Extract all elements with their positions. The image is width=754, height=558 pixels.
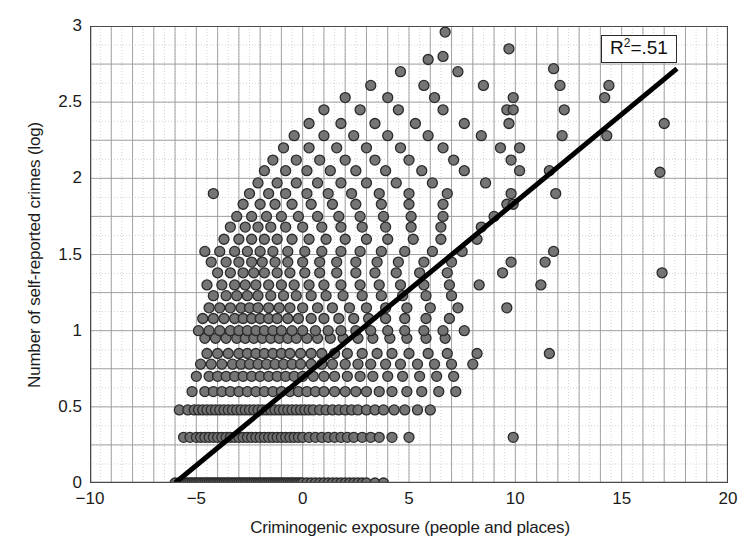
plot-area [90, 26, 728, 483]
x-tick-label: 15 [587, 489, 657, 509]
r-squared-prefix: R [610, 37, 624, 58]
y-tick-label: 0.5 [22, 397, 82, 417]
y-axis-tick-labels: 00.511.522.53 [16, 0, 82, 558]
y-tick-label: 3 [22, 16, 82, 36]
x-tick-label: 0 [268, 489, 338, 509]
x-tick-label: 10 [480, 489, 550, 509]
r-squared-suffix: =.51 [630, 37, 668, 58]
y-tick-label: 1 [22, 321, 82, 341]
y-tick-label: 2 [22, 168, 82, 188]
r-squared-annotation: R2=.51 [601, 35, 677, 63]
plot-canvas [90, 26, 728, 483]
x-tick-label: 5 [374, 489, 444, 509]
scatter-plot-figure: Number of self-reported crimes (log) 00.… [0, 0, 754, 558]
x-axis-tick-labels: −10−505101520 [0, 489, 754, 517]
y-tick-label: 2.5 [22, 92, 82, 112]
x-axis-title: Criminogenic exposure (people and places… [90, 518, 730, 538]
x-tick-label: −5 [161, 489, 231, 509]
x-tick-label: −10 [55, 489, 125, 509]
x-tick-label: 20 [693, 489, 754, 509]
y-tick-label: 1.5 [22, 245, 82, 265]
